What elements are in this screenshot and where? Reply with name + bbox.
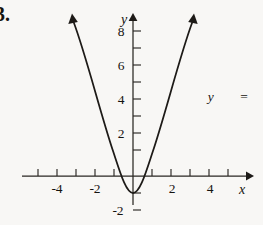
x-tick-label-neg4: -4 (51, 181, 62, 196)
y-tick-label-neg2: -2 (112, 203, 123, 218)
x-axis-label: x (238, 182, 246, 197)
y-tick-label-6: 6 (118, 58, 125, 73)
equation-label: y = x 2 − 1 (184, 88, 263, 104)
parabola-figure: 3. (0, 0, 263, 225)
y-axis-arrowhead (129, 13, 138, 21)
x-tick-label-neg2: -2 (89, 181, 100, 196)
y-tick-label-2: 2 (118, 126, 125, 141)
equation-equals: = (240, 89, 248, 104)
x-tick-label-2: 2 (169, 181, 176, 196)
y-tick-label-4: 4 (118, 92, 125, 107)
y-axis-ticks (133, 31, 141, 210)
y-axis-label: y (119, 12, 128, 27)
x-axis-arrowhead (246, 172, 254, 181)
x-tick-label-4: 4 (207, 181, 214, 196)
equation-lhs: y (206, 89, 214, 104)
left-arm-arrowhead (68, 14, 78, 25)
right-arm-arrowhead (188, 14, 198, 25)
graph-canvas: 8 6 4 2 -2 -4 -2 2 4 y x y = x 2 − 1 (0, 0, 263, 225)
